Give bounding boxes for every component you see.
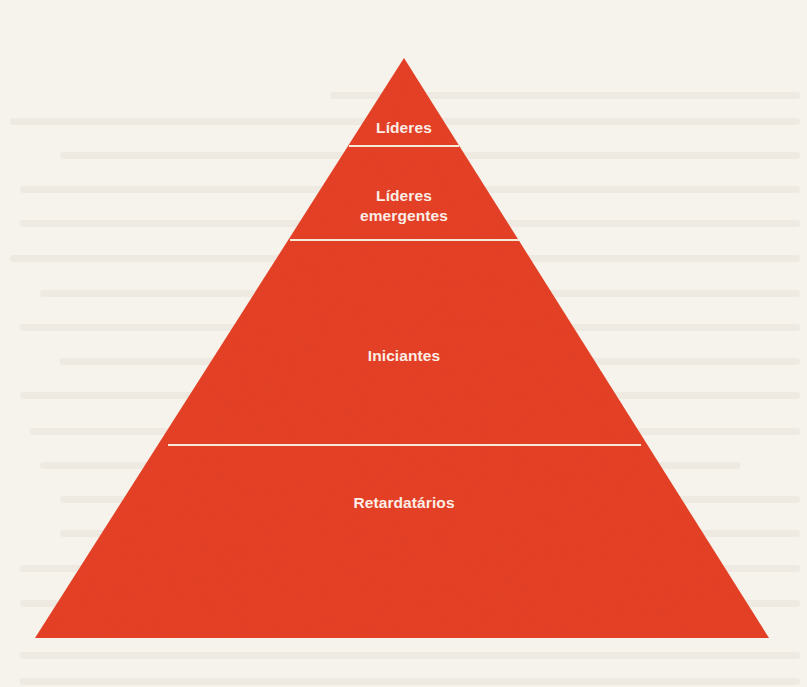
- tier-label-lideres: Líderes: [376, 118, 432, 138]
- pyramid-diagram: [0, 0, 807, 687]
- tier-label-retardatarios: Retardatários: [353, 493, 454, 513]
- tier-label-lideres-emergentes: Líderes emergentes: [360, 186, 448, 226]
- tier-label-iniciantes: Iniciantes: [368, 346, 441, 366]
